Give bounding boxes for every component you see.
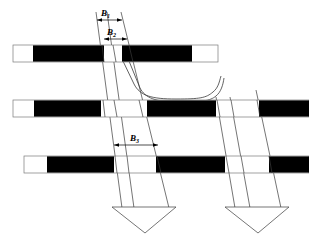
- b1-label-sub: 1: [107, 13, 110, 19]
- bottom-bar-black-1: [47, 156, 114, 172]
- b2-label-sub: 2: [113, 32, 116, 38]
- s-curve-lower: [129, 61, 224, 102]
- b3-arrow-right: [153, 143, 158, 147]
- middle-bar-black-3: [259, 100, 309, 116]
- middle-bar-black-1: [34, 100, 101, 116]
- diagram-svg: [0, 0, 309, 243]
- b1-arrow-right: [117, 18, 122, 22]
- top-bar-black-1: [33, 45, 104, 61]
- bottom-bar-black-3: [269, 156, 309, 172]
- right-band-arrow: [225, 207, 289, 233]
- bottom-bar: [24, 156, 309, 173]
- b3-label: B3: [130, 134, 139, 143]
- s-curve-upper: [122, 59, 221, 99]
- b3-label-sub: 3: [136, 138, 139, 144]
- b3-arrow-left: [114, 143, 119, 147]
- left-arrowhead: [112, 207, 176, 233]
- b2-arrow-left: [104, 37, 109, 41]
- b2-label: B2: [107, 28, 116, 37]
- middle-bar: [13, 100, 309, 117]
- b1-arrow-left: [97, 18, 102, 22]
- bottom-bar-black-2: [156, 156, 225, 172]
- left-band-arrow: [112, 207, 176, 233]
- figure-canvas: B1 B2 B3: [0, 0, 309, 243]
- b2-arrow-right: [122, 37, 127, 41]
- b1-label: B1: [101, 9, 110, 18]
- middle-bar-black-2: [147, 100, 216, 116]
- s-curve-transition: [122, 59, 224, 102]
- right-arrowhead: [225, 207, 289, 233]
